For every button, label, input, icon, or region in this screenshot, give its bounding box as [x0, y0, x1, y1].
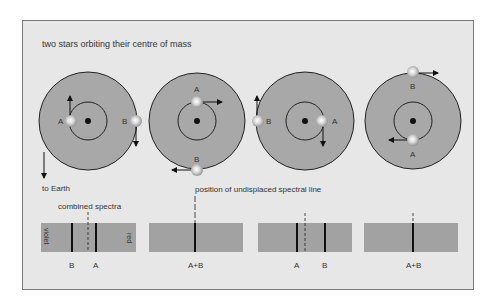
orbit-diagram-3: A B [252, 72, 354, 170]
star-b-icon [130, 115, 142, 127]
star-b-icon [252, 115, 264, 127]
violet-label: violet [43, 228, 50, 244]
star-a-icon [316, 115, 328, 127]
diagram-title: two stars orbiting their centre of mass [42, 39, 192, 49]
star-a-label: A [194, 85, 200, 94]
star-a-label: A [58, 117, 64, 126]
line-label: A+B [188, 261, 203, 270]
star-b-label: B [122, 117, 127, 126]
star-b-icon [191, 164, 203, 176]
line-label: A [294, 261, 300, 270]
combined-spectra-label: combined spectra [58, 202, 122, 211]
orbit-diagram-1: A B [39, 72, 142, 170]
orbit-diagram-2: A B [149, 73, 245, 176]
centre-of-mass-icon [194, 118, 200, 124]
star-a-label: A [332, 117, 338, 126]
spectrum-2: A+B [149, 196, 243, 270]
centre-of-mass-icon [302, 118, 308, 124]
spectrum-1: violet red B A [41, 212, 136, 270]
star-a-icon [191, 96, 203, 108]
centre-of-mass-icon [85, 118, 91, 124]
star-b-label: B [410, 82, 415, 91]
to-earth-label: to Earth [42, 184, 70, 193]
line-label: A [93, 261, 99, 270]
line-label: B [322, 261, 327, 270]
star-a-icon [407, 134, 419, 146]
line-label: A+B [406, 261, 421, 270]
line-label: B [69, 261, 74, 270]
spectrum-4: A+B [364, 213, 458, 270]
red-label: red [126, 233, 133, 243]
binary-star-diagram: two stars orbiting their centre of mass … [0, 0, 488, 308]
star-a-label: A [410, 150, 416, 159]
star-b-label: B [266, 117, 271, 126]
spectrum-3: A B [258, 213, 352, 270]
star-b-icon [407, 66, 419, 78]
star-a-icon [65, 115, 77, 127]
star-b-label: B [194, 155, 199, 164]
orbit-diagram-4: A B [365, 66, 461, 169]
undisplaced-label: position of undisplaced spectral line [195, 185, 322, 194]
centre-of-mass-icon [410, 118, 416, 124]
